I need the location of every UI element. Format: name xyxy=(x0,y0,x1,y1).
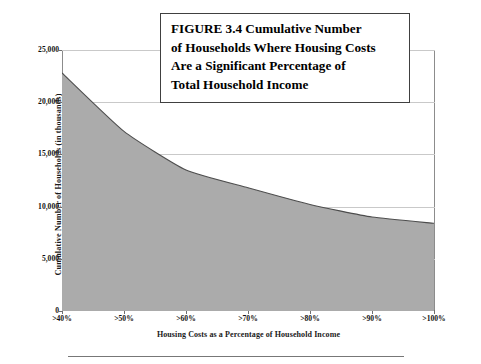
y-axis-tick-label: 10,000 xyxy=(21,203,59,211)
x-axis-tick-label: >40% xyxy=(32,314,92,323)
figure-title-box: FIGURE 3.4 Cumulative Numberof Household… xyxy=(160,13,410,103)
figure-title-line: of Households Where Housing Costs xyxy=(171,39,401,58)
bottom-divider xyxy=(68,356,404,357)
x-axis-tick-label: >50% xyxy=(94,314,154,323)
x-axis-tick-labels: >40%>50%>60%>70%>80%>90%>100% xyxy=(62,314,435,328)
x-axis-tick-label: >100% xyxy=(404,314,464,323)
y-axis-tick-labels: 25,00020,00015,00010,0005,0000 xyxy=(19,0,59,364)
y-axis-tick-label: 15,000 xyxy=(21,150,59,158)
area-fill-path xyxy=(62,73,434,311)
figure-title-line: Total Household Income xyxy=(171,76,401,95)
x-axis-tick-label: >60% xyxy=(156,314,216,323)
y-axis-tick-label: 25,000 xyxy=(21,46,59,54)
figure-title-line: FIGURE 3.4 Cumulative Number xyxy=(171,20,401,39)
x-axis-tick-label: >80% xyxy=(280,314,340,323)
figure-title-line: Are a Significant Percentage of xyxy=(171,57,401,76)
figure-page: Cumulative Number of Households (in thou… xyxy=(0,0,481,364)
y-axis-tick-label: 20,000 xyxy=(21,98,59,106)
x-axis-tick-label: >70% xyxy=(218,314,278,323)
x-axis-title: Housing Costs as a Percentage of Househo… xyxy=(62,330,435,339)
y-axis-tick-label: 5,000 xyxy=(21,255,59,263)
x-axis-tick-label: >90% xyxy=(342,314,402,323)
